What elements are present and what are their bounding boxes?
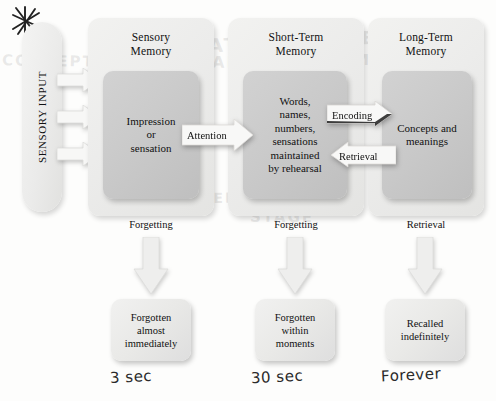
outcome-line-1: Forgotten	[275, 312, 316, 323]
stage-title-line2: Memory	[406, 45, 447, 57]
outcome-box-short-term-memory-text: Forgotten within moments	[275, 311, 316, 350]
memory-diagram-canvas: EXPLANATION OF AND COMPARE TION OF MEM N…	[0, 0, 496, 401]
inner-line-1: Words,	[279, 95, 310, 107]
attention-arrow-shape	[182, 119, 254, 151]
handwritten-duration-sensory-memory: 3 sec	[110, 367, 153, 387]
inner-line-2: names,	[280, 108, 311, 120]
stage-title-line1: Long-Term	[399, 31, 453, 43]
down-arrow-short-term-memory	[277, 237, 313, 295]
inner-line-2: or	[146, 128, 155, 140]
stage-title-line2: Memory	[276, 45, 317, 57]
outcome-box-long-term-memory-text: Recalled indefinitely	[401, 317, 449, 343]
inner-box-long-term-memory-text: Concepts and meanings	[397, 122, 457, 149]
retrieval-arrow-shape	[330, 142, 396, 170]
outcome-box-long-term-memory: Recalled indefinitely	[385, 299, 465, 361]
encoding-arrow-shape	[327, 101, 393, 129]
handwritten-duration-short-term-memory: 30 sec	[251, 367, 304, 388]
outcome-line-2: almost	[137, 325, 165, 336]
outcome-line-3: immediately	[125, 338, 178, 349]
inner-box-sensory-memory-text: Impression or sensation	[127, 115, 176, 156]
stage-title-short-term-memory: Short-Term Memory	[228, 30, 364, 58]
outcome-box-short-term-memory: Forgotten within moments	[255, 299, 335, 361]
attention-transition-arrow: Attention	[182, 119, 254, 151]
exit-label-long-term-memory: Retrieval	[371, 219, 481, 230]
down-arrow-sensory-memory	[133, 237, 169, 295]
inner-line-5: maintained	[271, 149, 320, 161]
exit-label-sensory-memory: Forgetting	[96, 219, 206, 230]
sensory-input-label: SENSORY INPUT	[22, 22, 62, 212]
stage-title-long-term-memory: Long-Term Memory	[368, 30, 484, 58]
outcome-line-2: indefinitely	[401, 331, 449, 342]
inner-line-1: Concepts and	[397, 122, 457, 134]
inner-line-4: sensations	[272, 135, 317, 147]
outcome-box-sensory-memory: Forgotten almost immediately	[111, 299, 191, 361]
outcome-line-1: Forgotten	[131, 312, 172, 323]
outcome-line-3: moments	[276, 338, 315, 349]
encoding-transition-arrow: Encoding	[327, 101, 393, 129]
inner-box-short-term-memory: Words, names, numbers, sensations mainta…	[243, 71, 347, 199]
stage-panel-sensory-memory: Sensory Memory Impression or sensation	[88, 18, 214, 216]
inner-line-3: numbers,	[275, 122, 316, 134]
inner-line-2: meanings	[406, 135, 448, 147]
retrieval-transition-arrow: Retrieval	[330, 142, 396, 170]
stage-title-line1: Short-Term	[269, 31, 324, 43]
exit-label-short-term-memory: Forgetting	[241, 219, 351, 230]
down-arrow-long-term-memory	[407, 237, 443, 295]
outcome-box-sensory-memory-text: Forgotten almost immediately	[125, 311, 178, 350]
inner-line-6: by rehearsal	[268, 162, 321, 174]
stage-title-line2: Memory	[131, 45, 172, 57]
inner-box-short-term-memory-text: Words, names, numbers, sensations mainta…	[268, 95, 321, 176]
stage-title-sensory-memory: Sensory Memory	[88, 30, 214, 58]
inner-box-long-term-memory: Concepts and meanings	[382, 71, 472, 199]
handwritten-duration-long-term-memory: Forever	[381, 364, 442, 385]
outcome-line-2: within	[282, 325, 309, 336]
inner-line-3: sensation	[131, 142, 172, 154]
outcome-line-1: Recalled	[407, 318, 444, 329]
stage-title-line1: Sensory	[132, 31, 170, 43]
inner-line-1: Impression	[127, 115, 176, 127]
